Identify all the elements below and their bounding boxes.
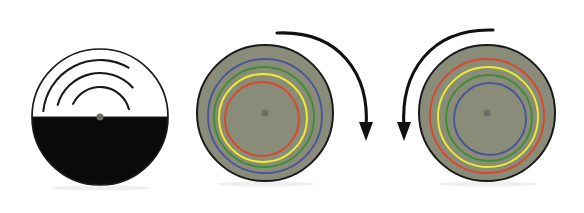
figure-root [0,0,584,213]
arrow-head [397,122,411,141]
arrow-head [359,122,373,141]
panel-1-split-disc-with-spiral-arcs [30,49,170,191]
center-hub-dot [97,114,104,121]
panel-3-gray-disc-rings-red-outermost [397,30,555,187]
center-hub-dot [484,110,491,117]
disc-lower-half-fill [30,117,170,189]
disc-shadow [217,181,315,186]
disc-shadow [439,181,537,186]
panel-2-gray-disc-rings-blue-outermost [197,33,373,187]
figure-canvas [0,0,584,213]
disc-shadow [52,185,150,190]
center-hub-dot [262,110,269,117]
